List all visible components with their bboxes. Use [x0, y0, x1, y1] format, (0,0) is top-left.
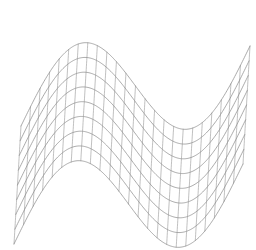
mesh-stringer-line — [15, 146, 244, 233]
mesh-stringer-line — [20, 57, 249, 144]
mesh-stringer-line — [16, 131, 245, 218]
mesh-stringer-line — [18, 102, 247, 189]
mesh-stringer-line — [21, 43, 250, 130]
wireframe-mesh-plot — [0, 0, 256, 250]
figure-canvas — [0, 0, 256, 250]
mesh-stringer-line — [18, 87, 247, 174]
mesh-stringer-line — [14, 161, 243, 248]
mesh-stringer-line — [17, 116, 246, 203]
mesh-stringer-line — [19, 72, 248, 159]
